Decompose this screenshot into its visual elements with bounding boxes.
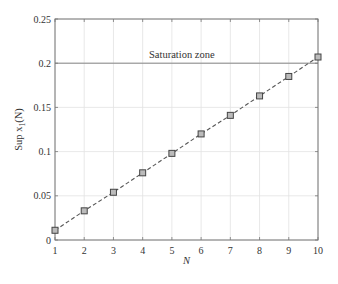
y-axis-label: Sup x1(N) <box>13 108 27 151</box>
x-tick-label: 3 <box>111 245 116 256</box>
y-tick-label: 0.2 <box>39 58 52 69</box>
y-tick-label: 0.15 <box>34 102 52 113</box>
x-tick-label: 7 <box>228 245 233 256</box>
data-point-marker <box>315 54 321 60</box>
series-line-sup-x1 <box>55 57 318 230</box>
x-tick-label: 1 <box>53 245 58 256</box>
y-tick-label: 0.1 <box>39 146 52 157</box>
data-point-marker <box>110 189 116 195</box>
y-tick-label: 0.25 <box>34 14 52 25</box>
data-point-marker <box>286 73 292 79</box>
x-tick-label: 9 <box>286 245 291 256</box>
data-point-marker <box>257 93 263 99</box>
x-tick-label: 8 <box>257 245 262 256</box>
x-tick-label: 5 <box>169 245 174 256</box>
saturation-zone-label: Saturation zone <box>149 49 215 60</box>
data-point-marker <box>81 208 87 214</box>
y-tick-label: 0 <box>46 235 51 246</box>
data-point-marker <box>52 227 58 233</box>
data-point-marker <box>169 150 175 156</box>
y-tick-label: 0.05 <box>34 190 52 201</box>
x-tick-label: 2 <box>82 245 87 256</box>
chart: Saturation zone 12345678910 00.050.10.15… <box>0 0 338 284</box>
x-tick-label: 4 <box>140 245 145 256</box>
x-tick-label: 10 <box>313 245 323 256</box>
x-tick-label: 6 <box>199 245 204 256</box>
data-point-marker <box>227 112 233 118</box>
x-axis-label: N <box>182 255 191 266</box>
data-point-marker <box>198 131 204 137</box>
data-point-marker <box>140 170 146 176</box>
